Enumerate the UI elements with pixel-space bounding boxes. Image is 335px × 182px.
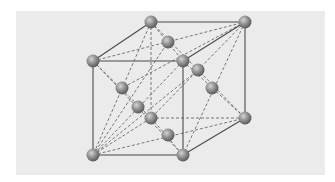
atom-face-bottom: [162, 129, 175, 142]
atom-back-bottom-left: [145, 112, 158, 125]
atom-front-top-left: [87, 55, 100, 68]
atom-back-bottom-right: [239, 112, 252, 125]
atom-face-top: [162, 36, 175, 49]
atom-back-top-right: [239, 16, 252, 29]
atom-back-top-left: [145, 16, 158, 29]
atoms: [87, 16, 252, 162]
fcc-lattice-diagram: [0, 0, 335, 182]
atom-face-right: [206, 82, 219, 95]
atom-front-top-right: [177, 55, 190, 68]
atom-face-left: [116, 82, 129, 95]
atom-face-front: [132, 101, 145, 114]
atom-face-back: [192, 64, 205, 77]
atom-front-bottom-left: [87, 149, 100, 162]
atom-front-bottom-right: [177, 149, 190, 162]
